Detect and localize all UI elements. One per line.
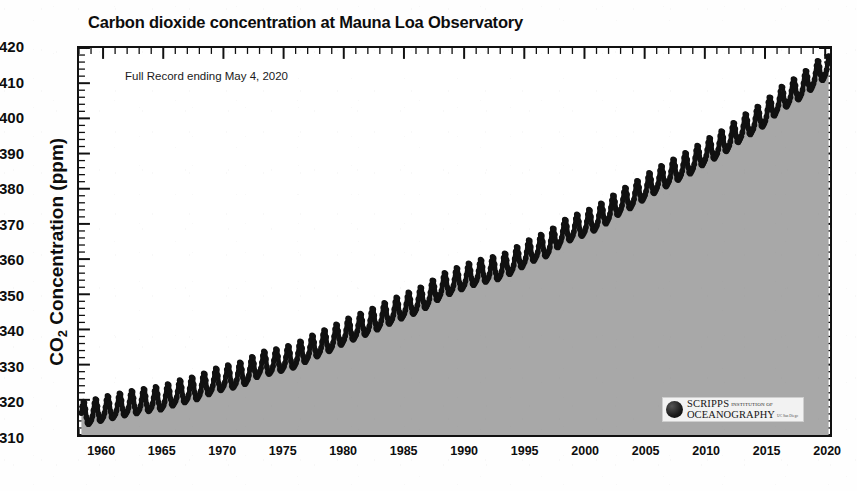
data-point-marker bbox=[251, 361, 257, 367]
logo-oceanography-text: OCEANOGRAPHY bbox=[687, 410, 775, 421]
data-point-marker bbox=[307, 344, 313, 350]
logo-row-bottom: OCEANOGRAPHY UC San Diego bbox=[687, 410, 798, 421]
data-point-marker bbox=[366, 324, 372, 330]
data-point-marker bbox=[780, 84, 786, 90]
data-point-marker bbox=[789, 88, 795, 94]
y-tick-label: 410 bbox=[0, 73, 24, 90]
data-point-marker bbox=[246, 373, 252, 379]
data-point-marker bbox=[824, 67, 830, 73]
data-point-marker bbox=[619, 203, 625, 209]
data-point-marker bbox=[440, 282, 446, 288]
data-point-marker bbox=[82, 400, 88, 406]
data-point-marker bbox=[792, 77, 798, 83]
data-point-marker bbox=[391, 306, 397, 312]
data-point-marker bbox=[612, 199, 618, 205]
data-point-marker bbox=[524, 249, 530, 255]
data-point-marker bbox=[155, 392, 161, 398]
data-point-marker bbox=[239, 367, 245, 373]
data-point-marker bbox=[198, 388, 204, 394]
data-point-marker bbox=[394, 295, 400, 301]
data-point-marker bbox=[311, 339, 317, 345]
data-point-marker bbox=[769, 100, 775, 106]
data-point-marker bbox=[503, 251, 509, 257]
data-point-marker bbox=[334, 322, 340, 328]
data-point-marker bbox=[805, 74, 811, 80]
data-point-marker bbox=[595, 219, 601, 225]
data-point-marker bbox=[120, 406, 126, 412]
data-point-marker bbox=[439, 288, 445, 294]
data-point-marker bbox=[559, 235, 565, 241]
x-tick-label: 1965 bbox=[148, 444, 176, 458]
data-point-marker bbox=[203, 377, 209, 383]
data-point-marker bbox=[432, 284, 438, 290]
data-point-marker bbox=[202, 371, 208, 377]
scripps-logo: SCRIPPS INSTITUTION OF OCEANOGRAPHY UC S… bbox=[662, 397, 804, 422]
x-tick-label: 1990 bbox=[450, 444, 478, 458]
data-point-marker bbox=[130, 389, 136, 395]
x-tick-label: 1970 bbox=[208, 444, 236, 458]
data-point-marker bbox=[107, 401, 113, 407]
data-point-marker bbox=[632, 190, 638, 196]
data-point-marker bbox=[523, 255, 529, 261]
data-point-marker bbox=[635, 179, 641, 185]
data-point-marker bbox=[719, 129, 725, 135]
data-point-marker bbox=[83, 406, 89, 412]
logo-row-top: SCRIPPS INSTITUTION OF bbox=[687, 399, 798, 410]
data-point-marker bbox=[234, 377, 240, 383]
data-point-marker bbox=[715, 147, 721, 153]
data-point-marker bbox=[342, 333, 348, 339]
x-tick-label: 1980 bbox=[329, 444, 357, 458]
data-point-marker bbox=[102, 410, 108, 416]
data-point-marker bbox=[95, 403, 101, 409]
data-point-marker bbox=[539, 233, 545, 239]
data-point-marker bbox=[390, 312, 396, 318]
data-point-marker bbox=[468, 268, 474, 274]
data-point-marker bbox=[708, 142, 714, 148]
data-point-marker bbox=[131, 395, 137, 401]
data-point-marker bbox=[620, 197, 626, 203]
data-point-marker bbox=[656, 175, 662, 181]
y-tick-label: 370 bbox=[0, 215, 24, 232]
data-point-marker bbox=[346, 316, 352, 322]
x-tick-label: 1995 bbox=[511, 444, 539, 458]
data-point-marker bbox=[359, 318, 365, 324]
data-point-marker bbox=[150, 401, 156, 407]
data-point-marker bbox=[707, 136, 713, 142]
data-point-marker bbox=[106, 394, 112, 400]
data-point-marker bbox=[764, 114, 770, 120]
data-point-marker bbox=[335, 328, 341, 334]
data-point-marker bbox=[199, 382, 205, 388]
data-point-marker bbox=[347, 323, 353, 329]
data-point-marker bbox=[126, 405, 132, 411]
data-point-marker bbox=[132, 404, 138, 410]
data-point-marker bbox=[419, 285, 425, 291]
data-point-marker bbox=[692, 155, 698, 161]
data-point-marker bbox=[214, 367, 220, 373]
data-point-marker bbox=[310, 333, 316, 339]
y-axis-title: CO2 Concentration (ppm) bbox=[46, 102, 70, 402]
data-point-marker bbox=[644, 182, 650, 188]
x-tick-label: 2005 bbox=[632, 444, 660, 458]
data-point-marker bbox=[728, 132, 734, 138]
plot-area: Full Record ending May 4, 2020 SCRIPPS I… bbox=[77, 46, 832, 437]
data-point-marker bbox=[600, 207, 606, 213]
data-point-marker bbox=[402, 307, 408, 313]
data-point-marker bbox=[91, 408, 97, 414]
data-point-marker bbox=[499, 268, 505, 274]
data-point-marker bbox=[144, 401, 150, 407]
data-point-marker bbox=[608, 205, 614, 211]
data-point-marker bbox=[679, 168, 685, 174]
data-point-marker bbox=[190, 376, 196, 382]
data-point-marker bbox=[800, 87, 806, 93]
data-point-marker bbox=[528, 244, 534, 250]
data-point-marker bbox=[191, 382, 197, 388]
data-point-marker bbox=[444, 277, 450, 283]
data-point-marker bbox=[270, 363, 276, 369]
y-tick-label: 360 bbox=[0, 251, 24, 268]
data-point-marker bbox=[491, 255, 497, 261]
x-tick-label: 2020 bbox=[813, 444, 841, 458]
y-axis-title-subscript: 2 bbox=[55, 330, 70, 337]
data-point-marker bbox=[623, 185, 629, 191]
data-point-marker bbox=[480, 264, 486, 270]
data-point-marker bbox=[235, 371, 241, 377]
